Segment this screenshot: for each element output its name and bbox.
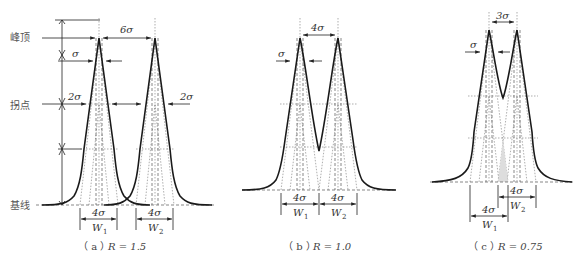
inflection-right-label: 2σ xyxy=(179,91,194,102)
width-2-name: W xyxy=(510,200,521,211)
svg-text:2: 2 xyxy=(342,213,346,221)
svg-text:2: 2 xyxy=(521,206,525,214)
label-inflection: 拐点 xyxy=(10,99,30,111)
width-1-value: 4σ xyxy=(292,192,307,203)
caption-c: （ c ） R = 0.75 xyxy=(468,241,543,252)
svg-text:（ c ）: （ c ） xyxy=(468,241,500,252)
svg-text:R = 1.0: R = 1.0 xyxy=(312,241,352,252)
panel-c: 3σ σ 4σ W 2 4σ W 1 （ c ） R = 0.75 xyxy=(430,10,574,252)
svg-text:（ a ）: （ a ） xyxy=(78,241,110,252)
width-2-name: W xyxy=(148,222,159,233)
peak-separation-label: 4σ xyxy=(310,22,325,33)
sigma-label: σ xyxy=(470,39,478,50)
width-1-value: 4σ xyxy=(481,204,496,215)
width-1-name: W xyxy=(482,219,493,230)
dotted-triangle-guides xyxy=(80,18,174,205)
svg-text:1: 1 xyxy=(304,213,308,221)
peak-separation-label: 3σ xyxy=(496,10,510,21)
width-2-value: 4σ xyxy=(509,185,524,196)
width-1-name: W xyxy=(293,207,304,218)
inflection-left-label: 2σ xyxy=(67,91,82,102)
svg-text:R = 1.5: R = 1.5 xyxy=(107,241,146,252)
svg-text:1: 1 xyxy=(103,228,107,236)
dotted-triangle-guides xyxy=(280,18,358,190)
svg-text:2: 2 xyxy=(159,228,163,236)
svg-text:R = 0.75: R = 0.75 xyxy=(497,241,543,252)
label-baseline: 基线 xyxy=(10,199,30,211)
peak-separation-label: 6σ xyxy=(120,24,134,35)
width-2-value: 4σ xyxy=(147,207,162,218)
panel-a: 峰顶 拐点 基线 6σ σ 2σ 2σ xyxy=(10,18,215,252)
label-peak-top: 峰顶 xyxy=(10,32,30,43)
width-2-value: 4σ xyxy=(330,192,345,203)
width-1-name: W xyxy=(92,222,103,233)
svg-text:（ b ）: （ b ） xyxy=(283,241,316,252)
sigma-label: σ xyxy=(278,48,286,59)
sigma-label: σ xyxy=(72,48,80,59)
width-2-name: W xyxy=(331,207,342,218)
caption-a: （ a ） R = 1.5 xyxy=(78,241,146,252)
svg-text:1: 1 xyxy=(493,225,497,233)
overlap-area xyxy=(498,140,508,182)
caption-b: （ b ） R = 1.0 xyxy=(283,241,352,252)
panel-b: 4σ σ 4σ W 1 4σ W 2 （ b ） R = 1.0 xyxy=(242,18,396,252)
chromatographic-resolution-diagram: 峰顶 拐点 基线 6σ σ 2σ 2σ xyxy=(0,0,582,264)
width-1-value: 4σ xyxy=(91,207,106,218)
